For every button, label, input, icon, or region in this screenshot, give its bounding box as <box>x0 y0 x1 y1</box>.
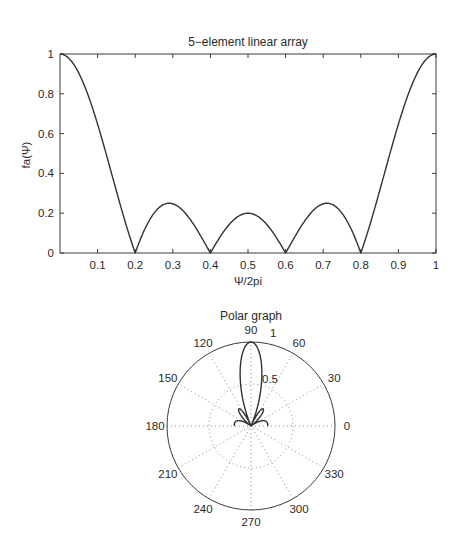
chart-figure: 5−element linear array 0.10.20.30.40.50.… <box>0 0 463 545</box>
x-tick-label: 0.9 <box>390 259 406 271</box>
array-factor-curve <box>60 54 436 253</box>
x-tick-label: 0.5 <box>240 259 256 271</box>
y-tick-label: 0.2 <box>38 207 54 219</box>
r-label-1: 1 <box>270 327 276 339</box>
angle-label-60: 60 <box>293 337 306 349</box>
angle-label-120: 120 <box>193 337 212 349</box>
angle-label-210: 210 <box>158 468 177 480</box>
x-tick-label: 1 <box>433 259 439 271</box>
angle-label-90: 90 <box>245 324 258 336</box>
angle-label-330: 330 <box>325 468 344 480</box>
x-tick-label: 0.2 <box>127 259 143 271</box>
linear-array-plot: 5−element linear array 0.10.20.30.40.50.… <box>20 35 439 287</box>
y-tick-label: 0 <box>48 247 54 259</box>
y-axis-ticks: 00.20.40.60.81 <box>38 48 436 259</box>
y-tick-label: 0.8 <box>38 88 54 100</box>
x-tick-label: 0.8 <box>353 259 369 271</box>
polar-graph: Polar graph 0306090120150180210240270300… <box>145 309 350 528</box>
angle-label-300: 300 <box>289 503 308 515</box>
x-tick-label: 0.1 <box>90 259 106 271</box>
x-tick-label: 0.6 <box>278 259 294 271</box>
r-label-0.5: 0.5 <box>262 373 278 385</box>
y-tick-label: 0.6 <box>38 128 54 140</box>
y-tick-label: 1 <box>48 48 54 60</box>
y-tick-label: 0.4 <box>38 167 55 179</box>
plot-frame <box>60 54 436 253</box>
angle-label-30: 30 <box>328 372 341 384</box>
x-tick-label: 0.3 <box>165 259 181 271</box>
angle-label-180: 180 <box>145 420 164 432</box>
polar-plot-title: Polar graph <box>220 309 282 323</box>
x-tick-label: 0.4 <box>202 259 219 271</box>
angle-label-0: 0 <box>344 420 350 432</box>
linear-plot-title: 5−element linear array <box>188 35 308 49</box>
x-tick-label: 0.7 <box>315 259 331 271</box>
y-axis-label: fa(Ψ) <box>20 141 32 168</box>
x-axis-label: Ψ/2pi <box>234 275 262 287</box>
angle-label-150: 150 <box>158 372 177 384</box>
angle-label-240: 240 <box>193 503 212 515</box>
angle-label-270: 270 <box>241 516 260 528</box>
